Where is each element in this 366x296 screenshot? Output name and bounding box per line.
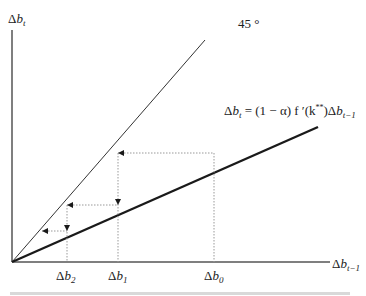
equation-label: Δbt = (1 − α) f ′(k**)Δbt−1 <box>224 104 356 120</box>
dotted-guides <box>42 153 214 262</box>
y-axis-label: Δbt <box>8 12 25 28</box>
bottom-divider <box>10 292 350 295</box>
line-45-degree <box>12 40 205 262</box>
x-tick-delta-b1: Δb1 <box>108 269 127 285</box>
arrow-left-icon <box>42 228 48 234</box>
diagram-canvas <box>0 0 366 296</box>
arrow-left-icon <box>67 202 73 208</box>
x-tick-delta-b2: Δb2 <box>56 269 75 285</box>
arrow-down-icon <box>115 199 121 205</box>
line-45-label: 45 ° <box>238 17 259 30</box>
arrowheads <box>42 150 124 234</box>
x-tick-delta-b0: Δb0 <box>204 269 223 285</box>
arrow-left-icon <box>118 150 124 156</box>
dynamics-line <box>12 127 318 262</box>
arrow-down-icon <box>64 225 70 231</box>
x-axis-label: Δbt−1 <box>332 257 360 273</box>
